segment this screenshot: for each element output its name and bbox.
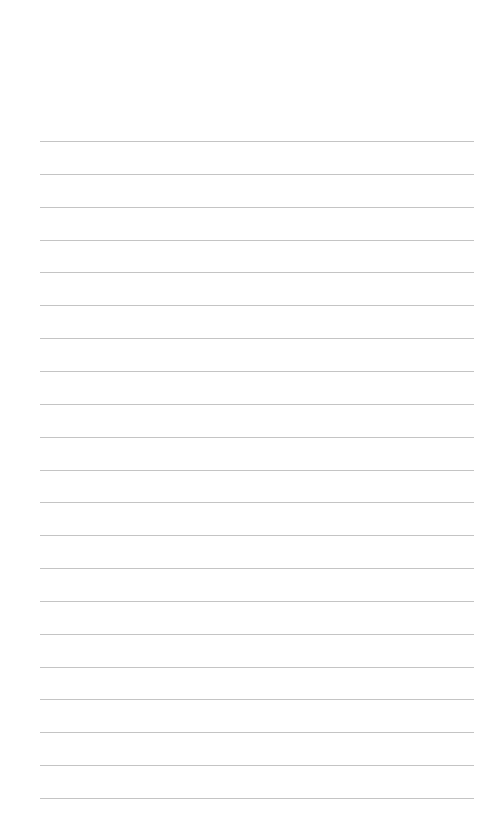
ruled-line bbox=[40, 798, 474, 799]
ruled-line bbox=[40, 437, 474, 438]
ruled-line bbox=[40, 732, 474, 733]
ruled-line bbox=[40, 667, 474, 668]
ruled-line bbox=[40, 535, 474, 536]
ruled-line bbox=[40, 568, 474, 569]
ruled-line bbox=[40, 634, 474, 635]
ruled-line bbox=[40, 699, 474, 700]
ruled-line bbox=[40, 371, 474, 372]
ruled-line bbox=[40, 404, 474, 405]
lined-paper-page bbox=[0, 0, 503, 836]
ruled-line bbox=[40, 207, 474, 208]
ruled-line bbox=[40, 470, 474, 471]
ruled-line bbox=[40, 305, 474, 306]
ruled-line bbox=[40, 240, 474, 241]
ruled-line bbox=[40, 502, 474, 503]
ruled-line bbox=[40, 272, 474, 273]
ruled-line bbox=[40, 141, 474, 142]
ruled-line bbox=[40, 765, 474, 766]
ruled-line bbox=[40, 174, 474, 175]
ruled-line bbox=[40, 338, 474, 339]
ruled-line bbox=[40, 601, 474, 602]
